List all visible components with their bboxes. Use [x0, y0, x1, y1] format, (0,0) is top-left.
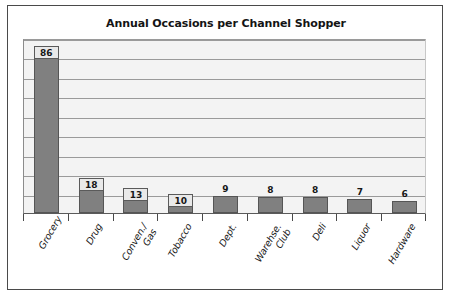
bar-value-label: 18 — [79, 178, 104, 191]
bar[interactable] — [392, 201, 417, 213]
x-axis-tick — [247, 214, 248, 221]
bar-value-label: 7 — [337, 187, 382, 199]
bar-slot: 8 — [248, 40, 293, 213]
bar-slot: 86 — [24, 40, 69, 213]
bar-slot: 10 — [158, 40, 203, 213]
bar-slot: 6 — [382, 40, 427, 213]
x-axis-tick — [157, 214, 158, 221]
x-axis-ticks — [23, 214, 426, 221]
bar-slot: 13 — [114, 40, 159, 213]
bar[interactable] — [347, 199, 372, 213]
bar-slot: 7 — [337, 40, 382, 213]
x-axis-tick — [292, 214, 293, 221]
x-axis-tick — [202, 214, 203, 221]
bar-value-label: 9 — [203, 184, 248, 196]
x-axis-label: Drug — [59, 222, 104, 290]
bar[interactable] — [258, 197, 283, 213]
x-axis-tick — [23, 214, 24, 221]
plot-area: 8618131098876 — [23, 39, 426, 214]
bar-value-label: 8 — [293, 185, 338, 197]
bar-value-label: 8 — [248, 185, 293, 197]
x-axis-labels: GroceryDrugConven./ GasTobaccoDept.Wareh… — [23, 222, 426, 288]
x-axis-tick — [113, 214, 114, 221]
bar-slot: 18 — [69, 40, 114, 213]
x-axis-tick — [381, 214, 382, 221]
bar-slot: 9 — [203, 40, 248, 213]
x-axis-tick — [425, 214, 426, 221]
bar-slot: 8 — [293, 40, 338, 213]
bar[interactable] — [213, 196, 238, 214]
bar-value-label: 6 — [382, 189, 427, 201]
bar-value-label: 10 — [168, 194, 193, 207]
x-axis-tick — [68, 214, 69, 221]
bar[interactable] — [303, 197, 328, 213]
x-axis-label: Grocery — [37, 222, 60, 251]
chart-title: Annual Occasions per Channel Shopper — [8, 17, 444, 30]
bar-value-label: 86 — [34, 46, 59, 59]
bar[interactable] — [34, 46, 59, 213]
bar-value-label: 13 — [123, 188, 148, 201]
chart-frame: Annual Occasions per Channel Shopper 861… — [7, 5, 443, 290]
x-axis-tick — [336, 214, 337, 221]
